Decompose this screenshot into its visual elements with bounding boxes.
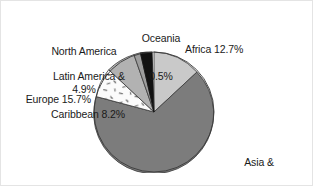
pie-label-latin-america-line1: Latin America & [5,70,125,83]
pie-label-latin-america-line2: Caribbean 8.2% [5,108,125,121]
pie-label-asia-middle-east: Asia & Middle East 58% [207,131,311,186]
pie-label-africa: Africa 12.7% [185,43,295,56]
pie-label-asia-line1: Asia & [207,156,311,169]
pie-label-europe: Europe 15.7% [3,93,91,106]
pie-chart-figure: Oceania 0.5% North America 4.9% Latin Am… [0,0,313,186]
